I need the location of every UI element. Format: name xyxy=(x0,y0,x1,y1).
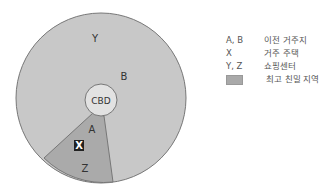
legend: A, B 이전 거주지 X 거주 주택 Y, Z 쇼핑센터 최고 친밀 지역 xyxy=(226,34,319,86)
legend-label: 쇼핑센터 xyxy=(264,60,296,73)
legend-label: 최고 친밀 지역 xyxy=(266,73,319,86)
legend-item-shopping-center: Y, Z 쇼핑센터 xyxy=(226,60,319,73)
urban-circle-diagram: CBD Y B A X Z xyxy=(0,0,210,192)
zone-label-b: B xyxy=(121,71,128,82)
legend-key: Y, Z xyxy=(226,60,264,73)
legend-swatch-icon xyxy=(226,75,243,85)
legend-label: 거주 주택 xyxy=(264,47,299,60)
legend-key: A, B xyxy=(226,34,264,47)
zone-label-y: Y xyxy=(91,33,99,44)
legend-item-previous-residence: A, B 이전 거주지 xyxy=(226,34,319,47)
legend-label: 이전 거주지 xyxy=(264,34,307,47)
zone-label-x: X xyxy=(75,140,83,151)
zone-label-a: A xyxy=(89,124,96,135)
cbd-label: CBD xyxy=(91,96,110,106)
legend-item-residence: X 거주 주택 xyxy=(226,47,319,60)
legend-item-highest-familiarity: 최고 친밀 지역 xyxy=(226,73,319,86)
legend-key: X xyxy=(226,47,264,60)
zone-label-z: Z xyxy=(82,163,89,174)
